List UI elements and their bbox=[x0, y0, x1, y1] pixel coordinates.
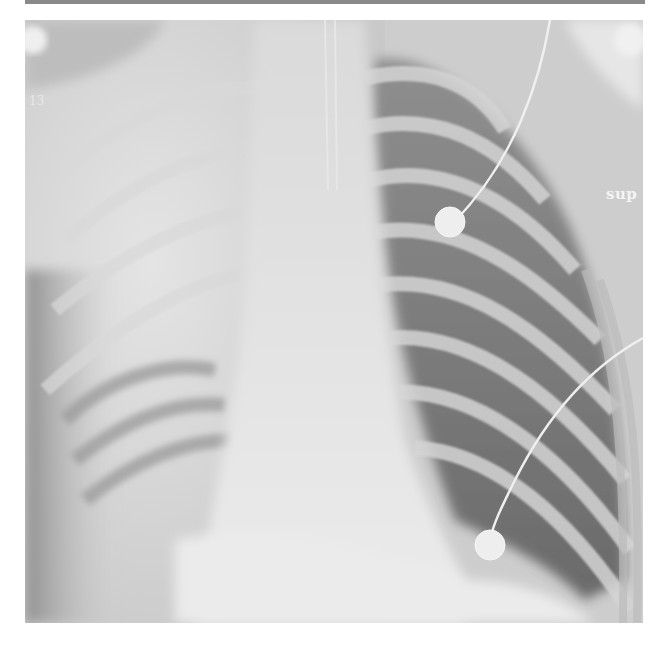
chest-xray-image: 13 sup bbox=[25, 20, 643, 623]
side-marker-label: sup bbox=[606, 185, 637, 203]
xray-rendering bbox=[25, 20, 643, 623]
top-border-bar bbox=[25, 0, 645, 4]
corner-marker: 13 bbox=[29, 94, 44, 108]
